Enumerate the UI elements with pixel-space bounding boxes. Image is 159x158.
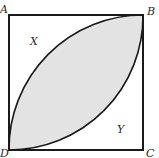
vertex-label-d: D	[0, 147, 9, 158]
region-label-x: X	[29, 35, 39, 48]
vertex-label-c: C	[146, 147, 155, 158]
vertex-label-a: A	[0, 3, 8, 16]
square-lens-diagram: A B C D X Y	[0, 0, 159, 158]
vertex-label-b: B	[146, 5, 155, 18]
region-label-y: Y	[117, 123, 126, 136]
